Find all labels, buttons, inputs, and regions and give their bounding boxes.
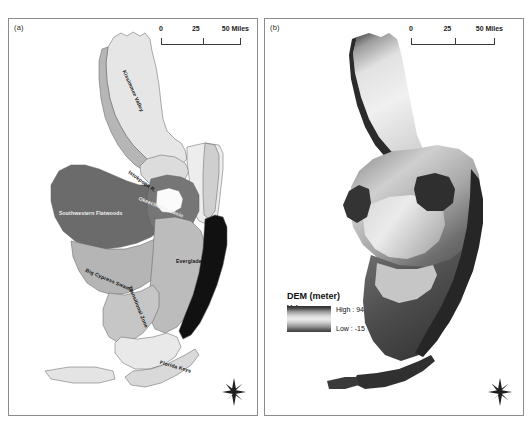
- dem-legend-high-label: High : 94: [336, 306, 364, 313]
- dem-legend: DEM (meter) Value High : 94 Low : -15: [287, 291, 406, 324]
- dem-legend-value-labels: High : 94 Low : -15: [336, 306, 406, 332]
- region-kissimmee-valley: [106, 32, 187, 169]
- dem-florida-keys: [353, 355, 435, 389]
- dem-color-ramp: [287, 306, 331, 332]
- north-arrow-panel-a: [221, 377, 247, 407]
- panel-b: (b) 0 25 50 Miles: [264, 18, 524, 416]
- map-physiographic-regions: [9, 19, 257, 415]
- north-arrow-panel-b: [487, 377, 513, 407]
- map-label-southwestern-flatwoods: Southwestern Flatwoods: [59, 210, 123, 216]
- region-dry-tortugas-strip: [45, 367, 115, 383]
- dem-lake-okeechobee: [414, 173, 455, 211]
- map-label-everglades: Everglades: [176, 258, 205, 264]
- dem-legend-ramp-row: High : 94 Low : -15: [287, 314, 406, 324]
- dem-keys-tail: [327, 377, 359, 389]
- dem-legend-title: DEM (meter): [287, 291, 406, 301]
- dem-legend-low-label: Low : -15: [336, 325, 365, 332]
- dem-north-strip: [353, 33, 437, 167]
- map-dem-raster: [265, 19, 523, 415]
- panel-a: (a) 0 25 50 Miles: [8, 18, 258, 416]
- figure-two-panel-map: (a) 0 25 50 Miles: [0, 0, 530, 432]
